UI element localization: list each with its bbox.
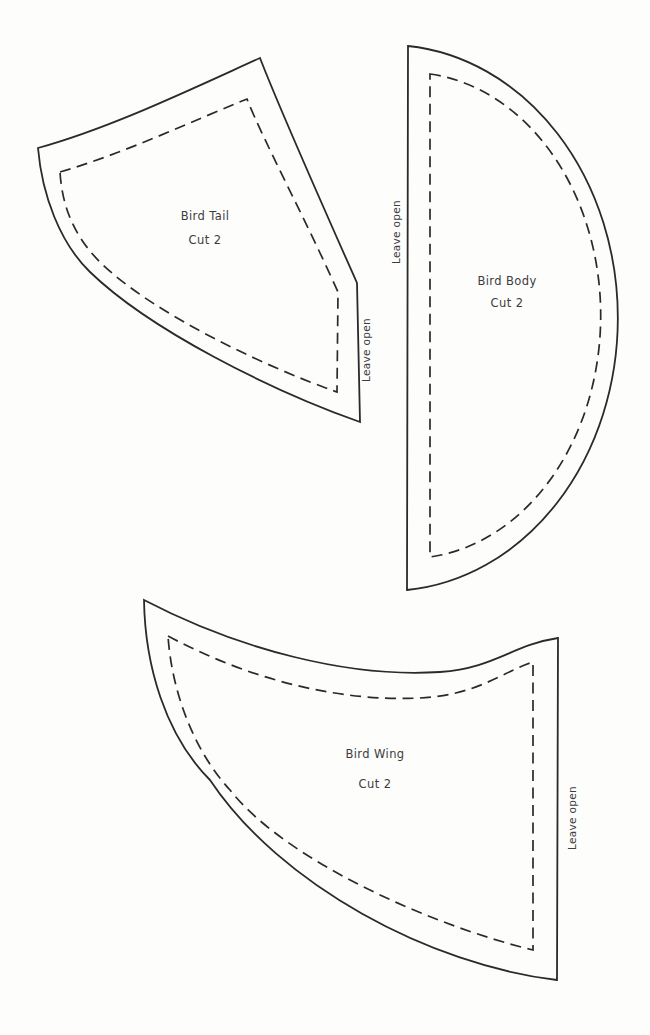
bird-body-name: Bird Body xyxy=(437,275,577,287)
bird-wing-label: Bird Wing Cut 2 xyxy=(305,748,445,790)
bird-tail-name: Bird Tail xyxy=(135,210,275,222)
bird-body-cut-count: Cut 2 xyxy=(437,297,577,309)
bird-wing-cut-count: Cut 2 xyxy=(305,778,445,790)
bird-wing-outline xyxy=(144,600,558,980)
bird-wing-leave-open-label: Leave open xyxy=(566,783,578,853)
sewing-pattern-sheet: Bird Tail Cut 2 Leave open Bird Body Cut… xyxy=(0,0,650,1035)
bird-wing-seam-line xyxy=(168,636,533,950)
bird-tail-leave-open-label: Leave open xyxy=(360,315,372,385)
bird-body-leave-open-label: Leave open xyxy=(390,197,402,267)
bird-body-label: Bird Body Cut 2 xyxy=(437,275,577,309)
bird-wing-name: Bird Wing xyxy=(305,748,445,760)
pattern-shapes-group xyxy=(38,46,618,980)
bird-body-seam-line xyxy=(430,74,601,557)
bird-tail-label: Bird Tail Cut 2 xyxy=(135,210,275,246)
pattern-shapes-canvas xyxy=(0,0,650,1035)
bird-tail-cut-count: Cut 2 xyxy=(135,234,275,246)
bird-body-outline xyxy=(407,46,618,590)
